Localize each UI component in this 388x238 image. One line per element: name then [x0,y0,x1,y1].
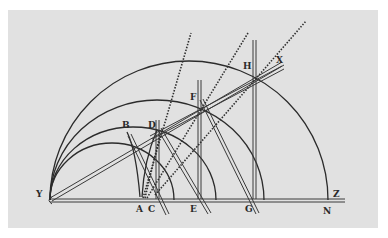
label-z: Z [333,189,340,199]
label-b: B [122,120,130,130]
dotted-line-4 [145,135,160,198]
baseline-yz [49,197,345,204]
label-y: Y [35,189,43,199]
label-h: H [243,61,252,71]
label-c: C [148,204,155,214]
label-n: N [323,206,331,216]
label-a: A [135,204,144,214]
rod-f-g [200,99,259,214]
vertical-rod-h [253,40,256,199]
small-arc-a [127,132,140,197]
label-x: X [276,55,283,65]
label-e: E [190,204,197,214]
label-f: F [190,92,197,102]
vertical-rod-f [198,80,201,199]
geometric-diagram: Y A C E G N Z B D F H X [0,0,388,238]
label-d: D [148,120,156,130]
label-g: G [245,204,253,214]
dotted-line-3 [155,21,306,195]
